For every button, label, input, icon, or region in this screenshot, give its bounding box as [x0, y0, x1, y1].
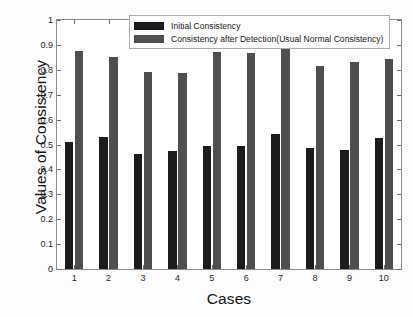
legend-swatch-icon-initial-consistency	[134, 22, 164, 30]
y-tick-mark	[397, 120, 401, 121]
x-tick-mark	[109, 20, 110, 24]
bar	[109, 57, 118, 269]
legend-label-consistency-after-detection: Consistency after Detection(Usual Normal…	[171, 34, 383, 44]
y-tick-label: 0.1	[40, 239, 53, 249]
x-tick-label: 8	[312, 273, 317, 283]
y-tick-mark	[397, 169, 401, 170]
x-tick-label: 1	[72, 273, 77, 283]
y-tick-mark	[397, 194, 401, 195]
bar	[237, 146, 246, 270]
y-tick-label: 0	[48, 264, 53, 274]
x-tick-label: 2	[106, 273, 111, 283]
bar	[99, 137, 108, 269]
y-tick-mark	[397, 269, 401, 270]
y-tick-label: 0.7	[40, 90, 53, 100]
y-tick-mark	[57, 269, 61, 270]
legend-label-initial-consistency: Initial Consistency	[171, 21, 240, 31]
y-tick-label: 0.2	[40, 214, 53, 224]
bar	[203, 146, 212, 269]
bar	[340, 150, 349, 269]
y-tick-mark	[397, 70, 401, 71]
bar-chart-figure: Values of Consistency 00.10.20.30.40.50.…	[0, 0, 413, 317]
x-tick-label: 10	[379, 273, 389, 283]
y-tick-label: 0.4	[40, 164, 53, 174]
y-tick-mark	[397, 95, 401, 96]
x-tick-label: 7	[278, 273, 283, 283]
x-tick-label: 3	[140, 273, 145, 283]
bar	[247, 53, 256, 269]
chart-legend: Initial Consistency Consistency after De…	[129, 15, 390, 49]
y-tick-label: 0.5	[40, 140, 53, 150]
bar	[350, 62, 359, 269]
y-tick-mark	[397, 244, 401, 245]
y-tick-mark	[57, 169, 61, 170]
y-tick-label: 0.8	[40, 65, 53, 75]
bar	[375, 138, 384, 269]
bar	[134, 154, 143, 269]
y-tick-mark	[57, 45, 61, 46]
y-tick-mark	[397, 145, 401, 146]
x-tick-mark	[74, 20, 75, 24]
y-tick-mark	[57, 145, 61, 146]
y-tick-mark	[397, 20, 401, 21]
y-tick-mark	[57, 194, 61, 195]
y-tick-label: 1	[48, 15, 53, 25]
legend-item-consistency-after-detection: Consistency after Detection(Usual Normal…	[134, 32, 383, 45]
bar	[385, 59, 394, 269]
legend-swatch-icon-consistency-after-detection	[134, 35, 164, 43]
bar	[75, 51, 84, 269]
x-tick-label: 4	[175, 273, 180, 283]
x-tick-label: 9	[347, 273, 352, 283]
legend-item-initial-consistency: Initial Consistency	[134, 19, 383, 32]
bar	[213, 52, 222, 269]
plot-area: 00.10.20.30.40.50.60.70.80.91 1234567891…	[56, 19, 402, 270]
bar	[306, 148, 315, 269]
x-axis-title: Cases	[56, 290, 402, 308]
bar	[65, 142, 74, 269]
bar	[271, 134, 280, 269]
y-tick-mark	[57, 70, 61, 71]
y-tick-label: 0.6	[40, 115, 53, 125]
x-tick-label: 6	[244, 273, 249, 283]
x-tick-label: 5	[209, 273, 214, 283]
y-tick-mark	[57, 219, 61, 220]
bar	[178, 73, 187, 269]
y-tick-mark	[57, 120, 61, 121]
y-tick-mark	[57, 244, 61, 245]
y-tick-label: 0.9	[40, 40, 53, 50]
bar	[281, 49, 290, 269]
y-tick-mark	[397, 219, 401, 220]
bar	[144, 72, 153, 269]
y-tick-mark	[397, 45, 401, 46]
y-tick-mark	[57, 20, 61, 21]
y-tick-mark	[57, 95, 61, 96]
bar	[168, 151, 177, 269]
y-tick-label: 0.3	[40, 189, 53, 199]
bar	[316, 66, 325, 269]
